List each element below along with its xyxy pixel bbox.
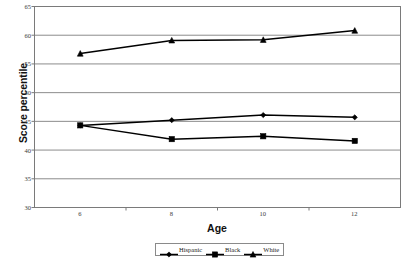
square-marker-icon: [205, 245, 225, 254]
x-axis-tick-labels: 681012: [34, 210, 400, 222]
series-black: [78, 123, 358, 144]
data-point-marker: [78, 123, 83, 128]
data-point-marker: [261, 112, 266, 117]
series-line: [80, 31, 355, 54]
series-line: [80, 115, 355, 125]
x-axis-tick-label: 8: [156, 210, 186, 217]
line-chart: Score percentile 3035404550556065 681012…: [0, 0, 406, 259]
legend-label: White: [263, 246, 280, 254]
x-axis-tick-label: 6: [65, 210, 95, 217]
x-axis-title: Age: [34, 222, 400, 234]
triangle-marker-icon: [243, 245, 263, 254]
legend-item-hispanic: Hispanic: [159, 245, 203, 254]
legend-label: Black: [225, 246, 241, 254]
data-point-marker: [169, 137, 174, 142]
series-line: [80, 125, 355, 141]
data-point-marker: [352, 115, 357, 120]
chart-legend: HispanicBlackWhite: [155, 243, 284, 256]
legend-item-white: White: [243, 245, 280, 254]
gridlines: [35, 7, 401, 179]
series-white: [77, 28, 357, 57]
data-point-marker: [261, 134, 266, 139]
data-point-marker: [169, 118, 174, 123]
plot-border: [35, 7, 401, 208]
series-layer: [77, 28, 357, 144]
series-hispanic: [78, 112, 358, 128]
legend-item-black: Black: [205, 245, 241, 254]
data-point-marker: [352, 138, 357, 143]
x-axis-tick-label: 10: [248, 210, 278, 217]
legend-label: Hispanic: [179, 246, 203, 254]
diamond-marker-icon: [159, 245, 179, 254]
x-axis-tick-label: 12: [339, 210, 369, 217]
